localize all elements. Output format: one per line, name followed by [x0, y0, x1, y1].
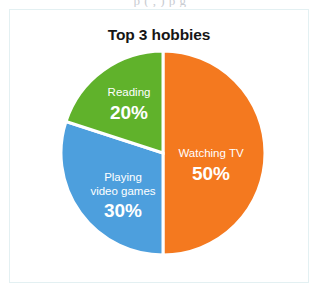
pie-label-playing-video-games-value: 30%	[104, 200, 142, 221]
pie-chart: Watching TV 50% Playing video games 30% …	[60, 50, 266, 256]
pie-label-reading-value: 20%	[110, 102, 148, 123]
pie-label-playing-video-games-name-line2: video games	[90, 185, 155, 197]
chart-title: Top 3 hobbies	[10, 26, 308, 44]
pie-label-playing-video-games-name-line1: Playing	[104, 171, 142, 183]
pie-label-watching-tv-name: Watching TV	[178, 147, 244, 159]
pie-label-reading-name: Reading	[108, 86, 151, 98]
pie-label-watching-tv-value: 50%	[192, 163, 230, 184]
chart-panel: Top 3 hobbies Watching TV 50% Playing vi…	[9, 9, 309, 283]
pie-chart-svg: Watching TV 50% Playing video games 30% …	[60, 50, 266, 256]
clipped-header-text: p ( , ) p g	[0, 0, 320, 7]
